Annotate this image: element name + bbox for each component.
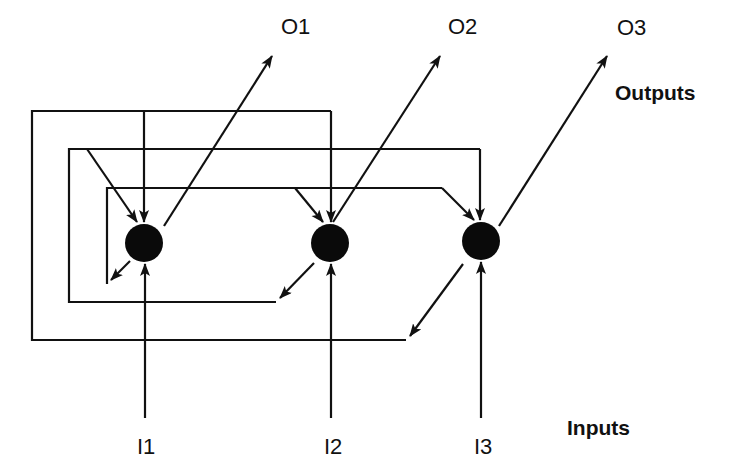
- output-arrow-o3: [499, 56, 607, 226]
- output-arrow-o1: [164, 56, 272, 226]
- feedback-loop-outer: [32, 111, 463, 340]
- feedback-loop-middle: [69, 149, 480, 302]
- output-arrows: [164, 56, 607, 226]
- neuron-node-2: [311, 224, 349, 262]
- recurrent-network-diagram: O1 O2 O3 Outputs I1 I2 I3 Inputs: [0, 0, 736, 474]
- output-label-o3: O3: [617, 15, 646, 40]
- feedback-arrow-middle-to-n1: [87, 149, 137, 222]
- neuron-node-3: [462, 222, 500, 260]
- input-label-i3: I3: [474, 434, 492, 459]
- output-labels: O1 O2 O3 Outputs: [281, 14, 695, 104]
- feedback-arrow-n1-out: [111, 261, 130, 280]
- feedback-arrow-inner-to-n2: [295, 188, 323, 222]
- inputs-group-label: Inputs: [567, 416, 630, 439]
- input-label-i1: I1: [137, 434, 155, 459]
- feedback-wire-middle: [69, 149, 480, 302]
- feedback-arrow-n3-out: [410, 264, 463, 336]
- output-label-o2: O2: [448, 14, 477, 39]
- output-arrow-o2: [333, 56, 440, 222]
- input-label-i2: I2: [324, 434, 342, 459]
- feedback-arrow-inner-to-n3: [442, 188, 474, 220]
- feedback-arrow-n2-out: [280, 263, 314, 298]
- neurons: [125, 222, 500, 262]
- output-label-o1: O1: [281, 14, 310, 39]
- outputs-group-label: Outputs: [615, 81, 695, 104]
- feedback-wire-outer: [32, 111, 406, 340]
- input-labels: I1 I2 I3 Inputs: [137, 416, 630, 459]
- neuron-node-1: [125, 224, 163, 262]
- feedback-loop-inner: [107, 188, 474, 284]
